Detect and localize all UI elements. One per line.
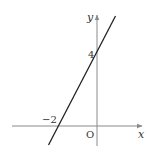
y-axis-label: y — [86, 11, 94, 24]
x-axis-label: x — [138, 128, 145, 141]
y-intercept-label: 4 — [88, 49, 94, 60]
origin-label: O — [86, 129, 94, 140]
x-intercept-label: −2 — [42, 114, 57, 125]
coordinate-plane: y 4 −2 O x — [0, 0, 151, 155]
